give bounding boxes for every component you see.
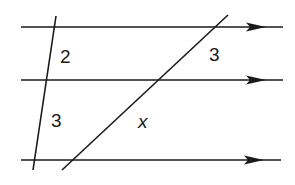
- label-left-upper: 2: [60, 46, 71, 67]
- label-right-upper: 3: [209, 44, 220, 65]
- label-right-lower-x: x: [137, 111, 149, 132]
- transversal-right: [62, 15, 228, 170]
- transversal-left: [33, 16, 56, 170]
- parallel-lines-diagram: 2 3 3 x: [0, 0, 295, 185]
- label-left-lower: 3: [51, 110, 62, 131]
- diagram-canvas: 2 3 3 x: [0, 0, 295, 185]
